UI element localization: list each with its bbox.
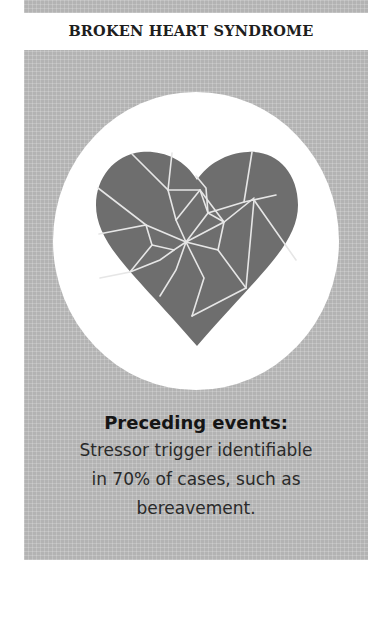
caption-body: Stressor trigger identifiable in 70% of … <box>76 436 316 523</box>
broken-heart-icon <box>96 150 298 346</box>
caption: Preceding events: Stressor trigger ident… <box>24 410 368 523</box>
infographic-title: BROKEN HEART SYNDROME <box>0 22 382 39</box>
caption-heading: Preceding events: <box>24 410 368 436</box>
top-pattern-strip <box>24 0 368 13</box>
